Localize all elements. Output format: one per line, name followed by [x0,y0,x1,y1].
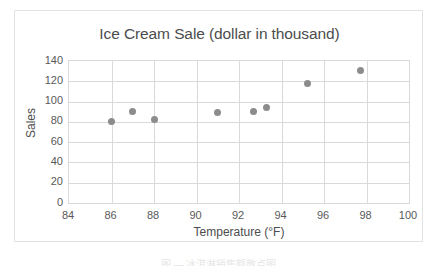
scatter-chart-figure: Ice Cream Sale (dollar in thousand) Sale… [0,0,437,275]
y-axis-tick-labels: 020406080100120140 [29,60,63,204]
data-point [250,108,257,115]
data-point [108,118,115,125]
y-tick-label: 20 [33,176,63,187]
figure-caption: 图 — 冰淇淋销售额散点图 [0,256,437,266]
chart-title: Ice Cream Sale (dollar in thousand) [15,25,424,43]
gridline-vertical [367,61,368,203]
x-tick-label: 100 [388,210,428,221]
y-tick-label: 80 [33,115,63,126]
chart-frame: Ice Cream Sale (dollar in thousand) Sale… [14,10,423,242]
x-tick-label: 90 [176,210,216,221]
x-tick-label: 94 [261,210,301,221]
gridline-vertical [154,61,155,203]
x-tick-label: 88 [133,210,173,221]
x-tick-label: 86 [91,210,131,221]
gridline-vertical [282,61,283,203]
x-axis-title: Temperature (°F) [68,225,410,239]
gridline-vertical [197,61,198,203]
data-point [129,108,136,115]
y-tick-label: 140 [33,55,63,66]
y-tick-label: 40 [33,156,63,167]
plot-area [68,60,410,204]
data-point [263,104,270,111]
y-tick-label: 0 [33,197,63,208]
data-point [151,116,158,123]
gridline-vertical [324,61,325,203]
x-tick-label: 92 [218,210,258,221]
y-tick-label: 60 [33,136,63,147]
x-tick-label: 98 [346,210,386,221]
data-point [214,109,221,116]
y-tick-label: 120 [33,75,63,86]
data-point [357,67,364,74]
x-axis-tick-labels: 8486889092949698100 [68,210,410,224]
x-tick-label: 84 [48,210,88,221]
gridline-vertical [239,61,240,203]
y-tick-label: 100 [33,95,63,106]
data-point [304,80,311,87]
x-tick-label: 96 [303,210,343,221]
gridline-vertical [112,61,113,203]
